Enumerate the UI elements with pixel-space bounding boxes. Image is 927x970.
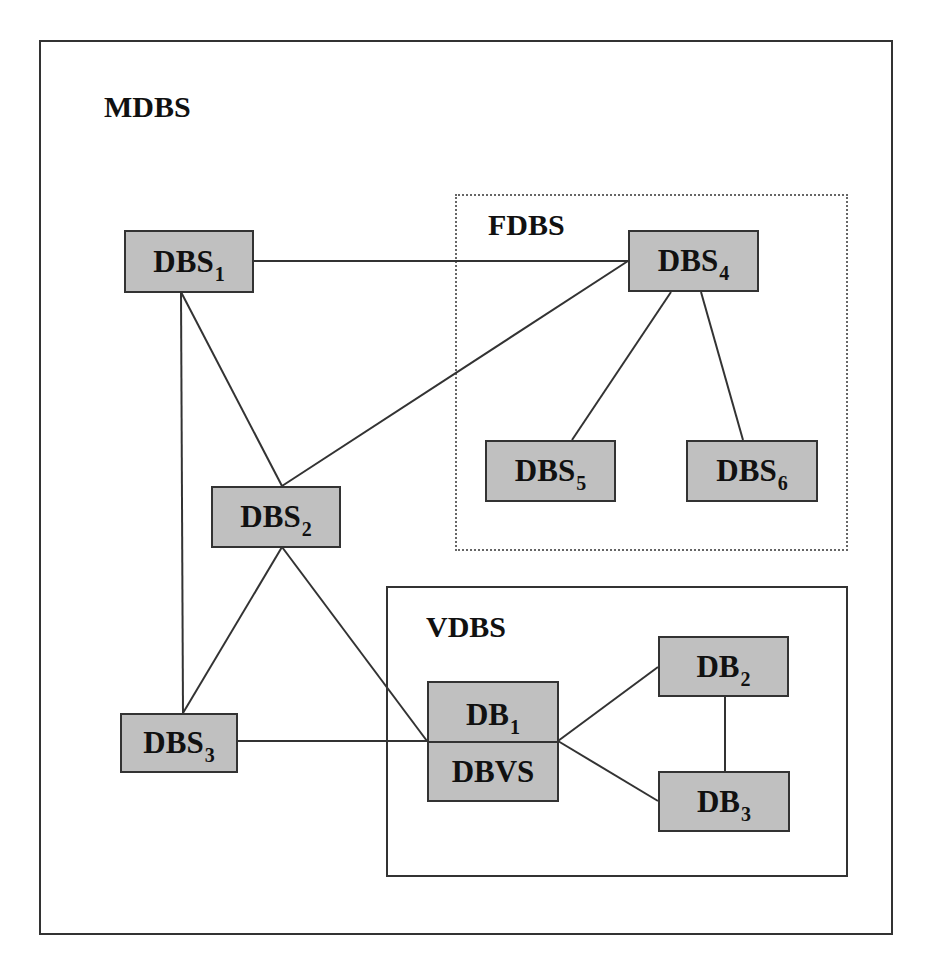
edge-db1-db3: [558, 741, 658, 801]
node-label: DB: [697, 784, 740, 819]
node-subscript: 6: [778, 472, 788, 494]
node-label: DBS: [716, 453, 776, 488]
node-dbs5: DBS5: [485, 440, 616, 502]
node-dbs4: DBS4: [628, 230, 759, 292]
node-dbs2: DBS2: [211, 486, 341, 548]
node-db1: DB1: [427, 681, 559, 743]
node-subscript: 1: [215, 263, 225, 285]
node-label: DBS: [143, 725, 203, 760]
edge-db1-db2: [558, 667, 658, 741]
node-dbs3: DBS3: [120, 713, 238, 773]
node-label: DBS: [240, 499, 300, 534]
node-subscript: 4: [719, 262, 729, 284]
edge-dbs1-dbs3: [181, 292, 183, 713]
node-db3: DB3: [658, 771, 790, 832]
node-label: DBS: [153, 244, 213, 279]
edge-dbs4-dbs5: [572, 292, 671, 440]
node-label: DB: [466, 697, 509, 732]
node-label: DBS: [658, 243, 718, 278]
node-dbvs: DBVS: [427, 741, 559, 802]
node-subscript: 5: [576, 472, 586, 494]
node-subscript: 3: [741, 803, 751, 825]
edge-dbs2-dbs3: [183, 547, 282, 713]
edge-dbs1-dbs2: [181, 292, 282, 486]
edge-dbs4-dbs6: [701, 292, 743, 440]
node-dbs1: DBS1: [124, 230, 254, 293]
node-subscript: 2: [302, 518, 312, 540]
node-dbs6: DBS6: [686, 440, 818, 502]
node-db2: DB2: [658, 636, 789, 697]
node-subscript: 3: [205, 744, 215, 766]
node-label: DBS: [515, 453, 575, 488]
node-subscript: 2: [741, 668, 751, 690]
node-subscript: 1: [510, 716, 520, 738]
edge-dbs2-db1: [282, 547, 427, 741]
node-label: DB: [696, 649, 739, 684]
node-label: DBVS: [452, 754, 535, 789]
